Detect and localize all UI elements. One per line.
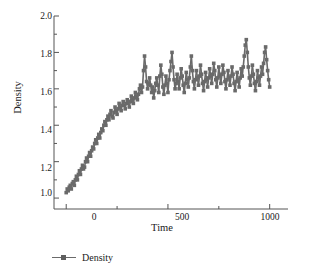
x-axis-title: Time [132, 222, 192, 233]
y-axis-title: Density [12, 68, 23, 128]
data-series-density [64, 38, 271, 195]
x-tick-label: 500 [162, 212, 202, 222]
x-tick-label: 0 [74, 212, 114, 222]
y-tick-label: 2.0 [22, 11, 52, 21]
chart-legend: Density [52, 252, 113, 263]
chart-figure: Density Time 2.0 1.8 1.6 1.4 1.2 1.0 0 5… [0, 0, 321, 277]
y-tick-label: 1.4 [22, 125, 52, 135]
axes [54, 16, 288, 209]
y-tick-label: 1.2 [22, 163, 52, 173]
x-tick-label: 1000 [250, 212, 290, 222]
legend-marker-icon [52, 253, 76, 262]
legend-label: Density [82, 252, 113, 263]
y-tick-label: 1.0 [22, 188, 52, 198]
plot-canvas [0, 0, 321, 277]
y-tick-label: 1.6 [22, 87, 52, 97]
y-tick-label: 1.8 [22, 49, 52, 59]
